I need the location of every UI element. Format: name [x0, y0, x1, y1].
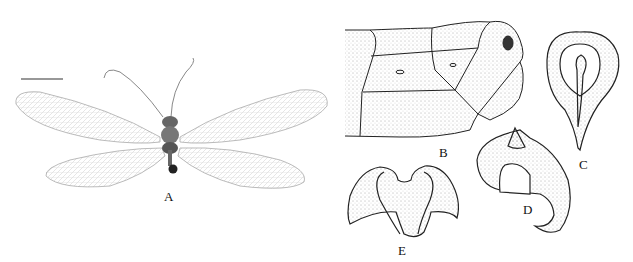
panel-e-structure	[348, 166, 458, 237]
panel-label-b: B	[439, 146, 448, 159]
figure-drawings	[0, 0, 633, 262]
panel-label-e: E	[398, 244, 406, 257]
panel-label-d: D	[523, 203, 532, 216]
panel-label-a: A	[164, 190, 173, 203]
figure: A B C D E	[0, 0, 633, 262]
panel-label-c: C	[579, 158, 588, 171]
panel-c-structure	[547, 32, 619, 150]
panel-a-lacewing	[16, 58, 327, 188]
panel-b-abdomen	[345, 21, 523, 137]
